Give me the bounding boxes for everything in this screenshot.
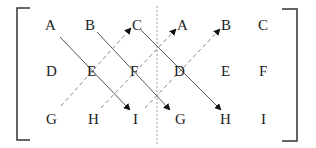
right-bracket	[282, 9, 297, 141]
cell-right-2-2: I	[261, 111, 266, 127]
cell-left-1-2: F	[130, 63, 138, 79]
cell-right-2-1: H	[220, 111, 231, 127]
matrix-right: A B C D E F G H I	[174, 17, 268, 127]
cell-left-1-1: E	[87, 63, 96, 79]
cell-left-2-2: I	[133, 111, 138, 127]
cell-left-0-0: A	[45, 17, 56, 33]
cell-right-0-2: C	[258, 17, 268, 33]
cell-left-0-1: B	[85, 17, 95, 33]
cell-left-2-0: G	[46, 111, 57, 127]
cell-right-0-1: B	[221, 17, 231, 33]
cell-left-1-0: D	[46, 63, 57, 79]
cell-right-1-2: F	[259, 63, 267, 79]
cell-right-2-0: G	[175, 111, 186, 127]
cell-right-0-0: A	[177, 17, 188, 33]
solid-arrows	[60, 30, 221, 110]
matrix-diagram: A B C D E F G H I A B C D E F G H I	[0, 0, 316, 148]
cell-right-1-0: D	[174, 63, 185, 79]
matrix-left: A B C D E F G H I	[45, 17, 142, 127]
cell-right-1-1: E	[221, 63, 230, 79]
cell-left-2-1: H	[88, 111, 99, 127]
dashed-arrows	[61, 28, 220, 108]
left-bracket	[17, 8, 30, 140]
cell-left-0-2: C	[132, 17, 142, 33]
